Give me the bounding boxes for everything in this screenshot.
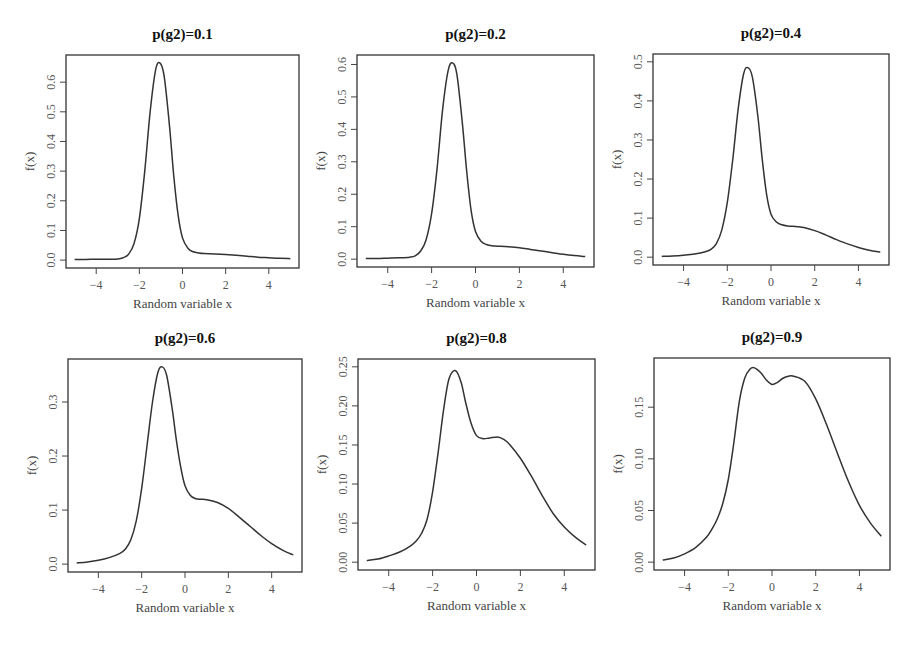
y-tick-label: 0.20 (336, 395, 350, 416)
y-axis-label: f(x) (24, 456, 39, 476)
y-axis-label: f(x) (314, 455, 329, 475)
y-tick-label: 0.1 (631, 211, 645, 226)
y-tick-label: 0.2 (46, 449, 60, 464)
y-tick-label: 0.1 (44, 223, 58, 238)
plot-frame (357, 55, 594, 267)
panel-title: p(g2)=0.6 (155, 330, 216, 347)
x-tick-label: 0 (182, 582, 188, 596)
y-tick-label: 0.15 (336, 434, 350, 455)
x-tick-label: 2 (225, 582, 231, 596)
y-axis-label: f(x) (609, 150, 624, 170)
panel-title: p(g2)=0.8 (446, 330, 507, 347)
y-tick-label: 0.1 (46, 503, 60, 518)
x-tick-label: 0 (180, 278, 186, 292)
x-tick-label: 2 (516, 277, 522, 291)
y-tick-label: 0.2 (44, 193, 58, 208)
y-tick-label: 0.00 (336, 552, 350, 573)
x-tick-label: 2 (813, 580, 819, 594)
panel-title: p(g2)=0.1 (152, 26, 213, 43)
y-tick-label: 0.6 (335, 57, 349, 72)
y-tick-label: 0.6 (44, 75, 58, 90)
x-tick-label: −4 (381, 277, 394, 291)
plot-frame (653, 54, 889, 265)
x-tick-label: 4 (856, 580, 862, 594)
x-tick-label: −2 (722, 580, 735, 594)
y-axis-label: f(x) (313, 151, 328, 171)
x-axis-label: Random variable x (136, 600, 235, 615)
x-tick-label: −2 (133, 278, 146, 292)
x-tick-label: −2 (721, 275, 734, 289)
y-tick-label: 0.5 (44, 104, 58, 119)
y-axis-label: f(x) (610, 454, 625, 474)
y-tick-label: 0.10 (336, 474, 350, 495)
y-tick-label: 0.0 (44, 253, 58, 268)
panel-5: p(g2)=0.8−4−20240.000.050.100.150.200.25… (314, 330, 595, 613)
density-curve (75, 62, 291, 259)
y-axis-label: f(x) (22, 152, 37, 172)
x-tick-label: 2 (812, 275, 818, 289)
x-tick-label: −2 (135, 582, 148, 596)
x-axis-label: Random variable x (723, 598, 822, 613)
x-tick-label: 4 (269, 582, 275, 596)
x-tick-label: −4 (677, 275, 690, 289)
density-curve (366, 63, 585, 259)
x-axis-label: Random variable x (722, 293, 821, 308)
x-tick-label: 4 (561, 580, 567, 594)
y-tick-label: 0.3 (44, 164, 58, 179)
panel-title: p(g2)=0.9 (742, 329, 803, 346)
y-tick-label: 0.5 (631, 54, 645, 69)
x-axis-label: Random variable x (427, 598, 526, 613)
x-tick-label: −4 (678, 580, 691, 594)
x-tick-label: 0 (473, 277, 479, 291)
y-tick-label: 0.3 (46, 395, 60, 410)
plot-frame (358, 359, 595, 570)
panel-2: p(g2)=0.2−4−20240.00.10.20.30.40.50.6Ran… (313, 26, 594, 310)
density-curve (662, 67, 881, 256)
x-tick-label: 4 (560, 277, 566, 291)
y-tick-label: 0.4 (335, 122, 349, 137)
panel-3: p(g2)=0.4−4−20240.00.10.20.30.40.5Random… (609, 25, 889, 308)
density-curve (663, 367, 882, 560)
panel-4: p(g2)=0.6−4−20240.00.10.20.3Random varia… (24, 330, 302, 615)
density-curve (77, 367, 294, 563)
x-tick-label: 2 (517, 580, 523, 594)
x-tick-label: 4 (855, 275, 861, 289)
y-tick-label: 0.4 (631, 93, 645, 108)
x-tick-label: −4 (90, 278, 103, 292)
y-tick-label: 0.3 (335, 154, 349, 169)
y-tick-label: 0.5 (335, 89, 349, 104)
panel-title: p(g2)=0.4 (741, 25, 802, 42)
x-axis-label: Random variable x (133, 296, 232, 311)
y-tick-label: 0.0 (335, 252, 349, 267)
x-tick-label: −4 (382, 580, 395, 594)
y-tick-label: 0.05 (632, 500, 646, 521)
x-tick-label: 4 (266, 278, 272, 292)
y-tick-label: 0.2 (335, 187, 349, 202)
plot-frame (654, 358, 890, 570)
y-tick-label: 0.0 (631, 250, 645, 265)
figure: p(g2)=0.1−4−20240.00.10.20.30.40.50.6Ran… (0, 0, 922, 649)
x-tick-label: 0 (768, 275, 774, 289)
x-tick-label: −4 (92, 582, 105, 596)
y-tick-label: 0.25 (336, 356, 350, 377)
density-curve (367, 371, 586, 561)
y-tick-label: 0.00 (632, 552, 646, 573)
y-tick-label: 0.4 (44, 134, 58, 149)
y-tick-label: 0.1 (335, 219, 349, 234)
y-tick-label: 0.15 (632, 397, 646, 418)
y-tick-label: 0.10 (632, 448, 646, 469)
y-tick-label: 0.2 (631, 172, 645, 187)
x-tick-label: −2 (425, 277, 438, 291)
x-tick-label: 0 (769, 580, 775, 594)
x-axis-label: Random variable x (426, 295, 525, 310)
x-tick-label: −2 (426, 580, 439, 594)
panel-title: p(g2)=0.2 (445, 26, 506, 43)
panel-6: p(g2)=0.9−4−20240.000.050.100.15Random v… (610, 329, 890, 613)
y-tick-label: 0.3 (631, 132, 645, 147)
x-tick-label: 0 (474, 580, 480, 594)
panel-1: p(g2)=0.1−4−20240.00.10.20.30.40.50.6Ran… (22, 26, 299, 311)
x-tick-label: 2 (223, 278, 229, 292)
y-tick-label: 0.05 (336, 513, 350, 534)
y-tick-label: 0.0 (46, 557, 60, 572)
